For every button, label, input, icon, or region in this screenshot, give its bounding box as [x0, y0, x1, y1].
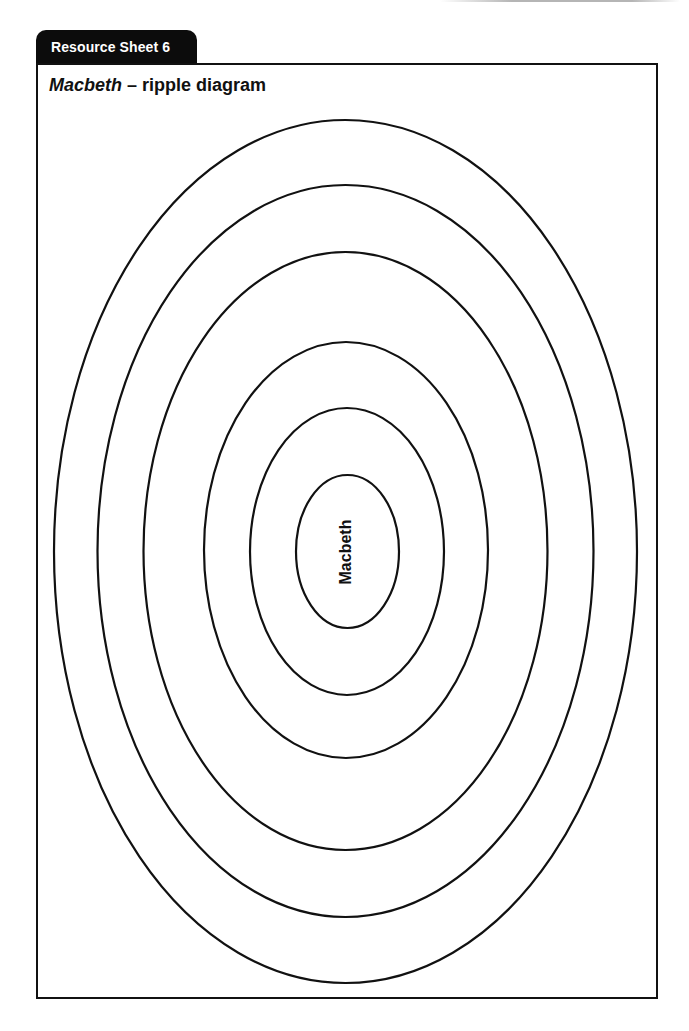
ripple-diagram	[0, 0, 689, 1031]
center-label: Macbeth	[337, 520, 355, 585]
